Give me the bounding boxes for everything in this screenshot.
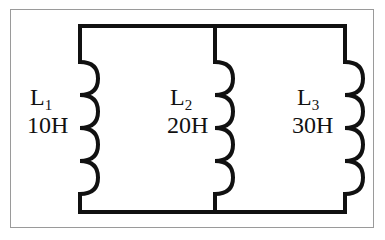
inductor-coil-l3 xyxy=(345,62,363,194)
inductor-l3-name: L3 xyxy=(297,85,319,113)
inductor-l1-value: 10H xyxy=(27,113,68,137)
top-wire xyxy=(80,26,345,62)
bottom-wire xyxy=(80,195,345,212)
inductor-l3-value: 30H xyxy=(292,113,333,137)
inductor-l1-name: L1 xyxy=(30,85,52,113)
inductor-l2-value: 20H xyxy=(167,113,208,137)
inductor-coil-l1 xyxy=(80,62,98,194)
inductor-coil-l2 xyxy=(215,62,233,194)
inductor-l2-name: L2 xyxy=(170,85,192,113)
